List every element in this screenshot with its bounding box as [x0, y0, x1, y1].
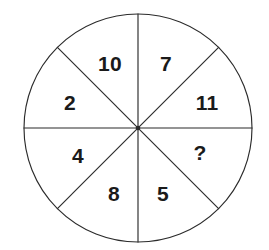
- sector-10[interactable]: 10: [24, 14, 138, 128]
- circle-sector-diagram: 7 11 ? 5 8 4 2 10: [0, 0, 269, 250]
- puzzle-figure: 7 11 ? 5 8 4 2 10: [0, 0, 269, 250]
- sector-label-10: 10: [98, 52, 122, 75]
- sector-label-7: 7: [160, 52, 172, 75]
